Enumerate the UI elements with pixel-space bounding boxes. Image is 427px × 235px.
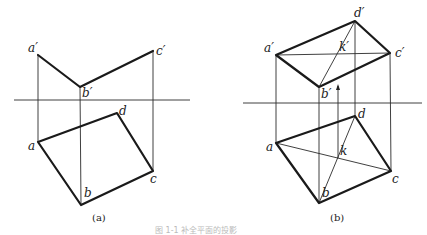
figure-a: a′ b′ c′ a b c d (a) xyxy=(14,41,190,223)
label-c-prime: c′ xyxy=(395,46,405,60)
label-c: c xyxy=(392,172,399,186)
label-b-prime: b′ xyxy=(321,87,332,101)
label-a-prime: a′ xyxy=(264,41,274,55)
front-diagonal-ac xyxy=(276,53,390,55)
projection-line-b xyxy=(80,87,81,205)
label-d: d xyxy=(358,107,366,121)
label-a: a xyxy=(266,140,273,154)
label-b-prime: b′ xyxy=(82,86,93,100)
label-b: b xyxy=(322,186,330,200)
arrow-up-icon xyxy=(336,84,340,90)
projection-line-c xyxy=(390,53,391,171)
top-view-quadrilateral xyxy=(38,113,153,205)
caption-a: (a) xyxy=(92,212,106,223)
label-d-prime: d′ xyxy=(354,6,365,20)
projection-diagram: a′ b′ c′ a b c d (a) a′ b′ c′ d′ k′ a xyxy=(0,0,427,235)
label-k-prime: k′ xyxy=(339,40,349,54)
label-k: k xyxy=(340,144,347,158)
label-a-prime: a′ xyxy=(28,41,38,55)
caption-b: (b) xyxy=(330,212,344,223)
figure-b: a′ b′ c′ d′ k′ a b c d k (b) xyxy=(243,6,422,223)
label-c-prime: c′ xyxy=(156,44,166,58)
label-b: b xyxy=(84,186,92,200)
front-view-polyline xyxy=(38,51,153,87)
label-d: d xyxy=(119,104,127,118)
label-c: c xyxy=(150,172,157,186)
top-view-quadrilateral xyxy=(276,116,391,203)
figure-caption: 图 1-1 补全平面的投影 xyxy=(155,225,237,235)
label-a: a xyxy=(28,139,35,153)
